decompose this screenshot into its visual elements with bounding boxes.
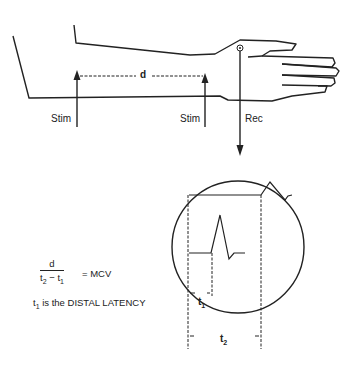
t1-label: t1 [198, 296, 205, 309]
stim-distal-arrow [202, 73, 209, 127]
formula-equals-mcv: = MCV [82, 268, 111, 279]
stim-distal-label: Stim [180, 113, 200, 124]
stim-proximal-arrow [74, 70, 81, 127]
distal-latency-note: t1 is the DISTAL LATENCY [33, 297, 146, 310]
arm-outline [13, 25, 339, 101]
stim-proximal-label: Stim [51, 113, 71, 124]
diagram-canvas [0, 0, 353, 365]
mcv-formula-fraction: d t2 − t1 [40, 258, 64, 285]
recording-label: Rec [245, 113, 263, 124]
formula-numerator: d [40, 258, 64, 271]
proximal-response-trace [189, 182, 292, 200]
distal-response-trace [189, 215, 245, 259]
distance-label: d [140, 69, 146, 80]
t2-label: t2 [220, 333, 227, 346]
formula-denominator: t2 − t1 [40, 271, 64, 285]
